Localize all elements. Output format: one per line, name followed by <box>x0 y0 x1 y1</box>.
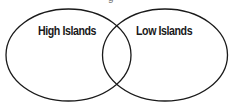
left-set-label: High Islands <box>38 24 96 38</box>
right-set-ellipse <box>103 9 228 101</box>
right-set-label: Low Islands <box>136 24 192 38</box>
left-set-ellipse <box>6 9 131 101</box>
venn-ellipses <box>0 0 229 103</box>
